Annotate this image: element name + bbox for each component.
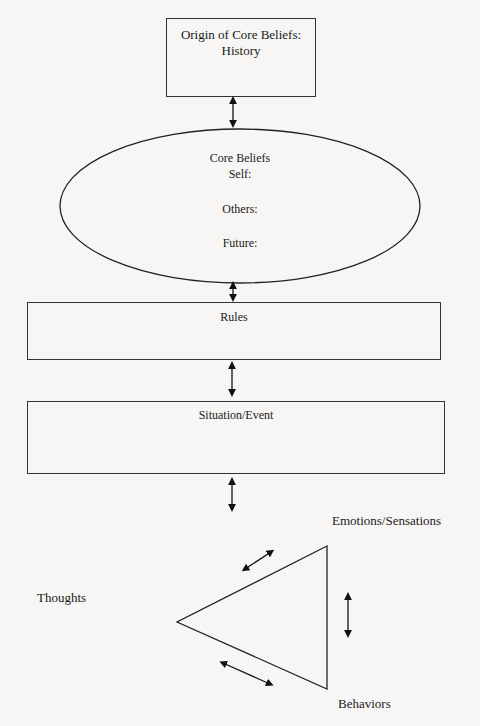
core-beliefs-others: Others: (140, 201, 340, 218)
behaviors-label: Behaviors (338, 695, 438, 712)
thoughts-label: Thoughts (37, 589, 117, 606)
core-beliefs-self: Self: (140, 166, 340, 183)
core-beliefs-future: Future: (140, 235, 340, 252)
rules-label: Rules (27, 309, 441, 326)
core-beliefs-title: Core Beliefs (140, 150, 340, 167)
situation-label: Situation/Event (27, 407, 445, 424)
diagram-lines (0, 0, 480, 726)
emotions-label: Emotions/Sensations (332, 512, 480, 529)
cbt-triangle (177, 546, 327, 689)
